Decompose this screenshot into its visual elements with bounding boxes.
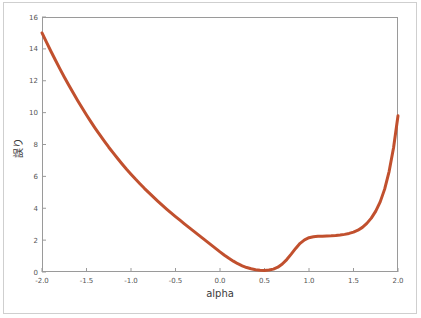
x-tick-label: -1.0 [124, 277, 138, 285]
x-axis-title: alpha [206, 288, 234, 299]
y-tick-label: 10 [29, 109, 38, 117]
y-tick-label: 6 [34, 173, 39, 181]
x-tick-label: -2.0 [35, 277, 49, 285]
figure-canvas: -2.0-1.5-1.0-0.50.00.51.01.52.0 02468101… [0, 0, 421, 318]
y-tick-label: 12 [29, 77, 38, 85]
x-tick-label: 0.5 [259, 277, 270, 285]
y-axis-title: 誤り [12, 138, 24, 158]
x-tick-label: 2.0 [392, 277, 403, 285]
x-axis-tick-labels: -2.0-1.5-1.0-0.50.00.51.01.52.0 [35, 277, 403, 285]
x-tick-label: 0.0 [214, 277, 225, 285]
y-tick-label: 14 [29, 45, 38, 53]
y-tick-label: 16 [29, 14, 38, 22]
x-tick-label: -0.5 [169, 277, 183, 285]
plot-area: -2.0-1.5-1.0-0.50.00.51.01.52.0 02468101… [0, 0, 421, 318]
x-tick-label: 1.5 [348, 277, 359, 285]
y-tick-label: 4 [34, 205, 39, 213]
x-tick-label: -1.5 [80, 277, 94, 285]
y-tick-label: 2 [34, 237, 38, 245]
x-tick-label: 1.0 [303, 277, 314, 285]
y-tick-label: 0 [34, 269, 38, 277]
y-axis-tick-labels: 0246810121416 [29, 14, 38, 277]
y-tick-label: 8 [34, 141, 38, 149]
